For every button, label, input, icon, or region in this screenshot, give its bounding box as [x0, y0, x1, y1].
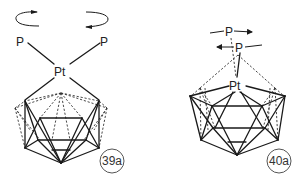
arrowhead-icon: [31, 10, 38, 14]
compound-label: 39a: [102, 154, 122, 168]
arrow-icon: [234, 31, 252, 32]
rotation-arrows: [16, 10, 108, 29]
phosphorus-label: P: [225, 25, 233, 39]
arrowhead-icon: [85, 25, 92, 29]
structure-40a: P P Pt: [190, 25, 291, 173]
phosphorus-label: P: [16, 35, 24, 49]
compound-label: 40a: [269, 154, 289, 168]
curved-arrow-icon: [86, 12, 108, 27]
platinum-label: Pt: [229, 79, 241, 93]
borane-cage: [15, 93, 107, 163]
phosphorus-label: P: [235, 41, 243, 55]
curved-arrow-icon: [16, 12, 39, 26]
structure-39a: P P Pt: [15, 10, 124, 173]
diagram-canvas: P P Pt: [0, 0, 303, 185]
phosphorus-label: P: [100, 35, 108, 49]
platinum-label: Pt: [54, 65, 66, 79]
